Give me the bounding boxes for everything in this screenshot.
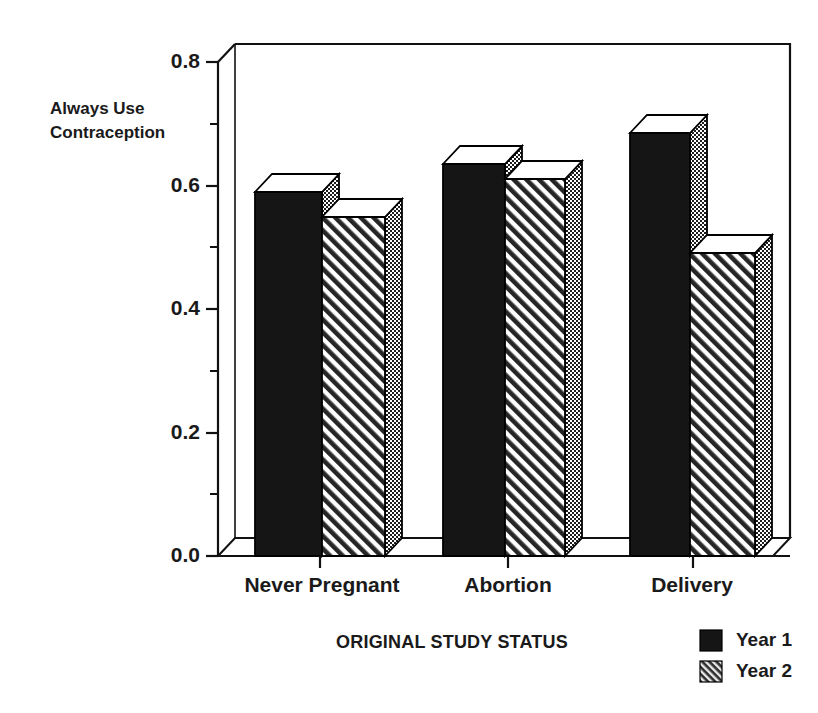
y-tick-label-4: 0.8: [171, 49, 201, 72]
legend-label-year-1: Year 1: [736, 629, 792, 650]
y-tick-labels: 0.0 0.2 0.4 0.6 0.8: [171, 49, 201, 566]
bar-group-never-pregnant: [255, 174, 402, 556]
bar-chart-svg: 0.0 0.2 0.4 0.6 0.8 Always Use Contracep…: [0, 0, 818, 713]
x-category-labels: Never Pregnant Abortion Delivery: [244, 573, 733, 596]
x-category-label-never-pregnant: Never Pregnant: [244, 573, 399, 596]
bar-never-pregnant-year2[interactable]: [322, 199, 402, 556]
y-tick-label-3: 0.6: [171, 173, 200, 196]
bar-delivery-year2[interactable]: [690, 235, 772, 556]
x-axis-title: ORIGINAL STUDY STATUS: [336, 632, 568, 652]
x-category-label-delivery: Delivery: [651, 573, 733, 596]
bar-group-abortion: [443, 146, 582, 556]
chart-container: 0.0 0.2 0.4 0.6 0.8 Always Use Contracep…: [0, 0, 818, 713]
legend-item-year-2[interactable]: Year 2: [700, 660, 792, 682]
bar-group-delivery: [630, 115, 772, 556]
y-axis-title-line2: Contraception: [50, 123, 165, 142]
y-axis-title-line1: Always Use: [50, 99, 145, 118]
bar-abortion-year2[interactable]: [505, 161, 582, 556]
y-axis-title: Always Use Contraception: [50, 99, 165, 142]
y-tick-label-0: 0.0: [171, 543, 200, 566]
y-tick-label-1: 0.2: [171, 420, 200, 443]
chart-legend: Year 1 Year 2: [700, 629, 792, 682]
legend-swatch-year-1: [700, 630, 722, 651]
x-axis-ticks: [320, 556, 693, 568]
legend-item-year-1[interactable]: Year 1: [700, 629, 792, 651]
legend-swatch-year-2: [700, 661, 722, 682]
x-category-label-abortion: Abortion: [464, 573, 551, 596]
legend-label-year-2: Year 2: [736, 660, 792, 681]
y-tick-label-2: 0.4: [171, 296, 201, 319]
y-axis-ticks: [206, 62, 218, 556]
